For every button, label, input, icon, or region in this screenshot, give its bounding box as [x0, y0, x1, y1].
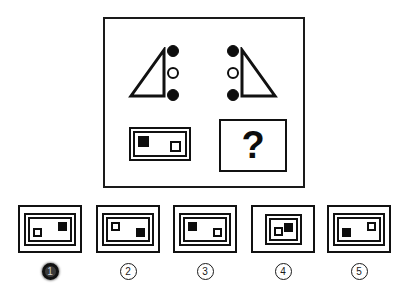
answer-option-4[interactable]: 4: [251, 205, 315, 280]
answer-option-3-label-wrap: 3: [173, 263, 237, 280]
answer-option-1-marker[interactable]: 1: [42, 263, 59, 280]
triangle-right-icon: [239, 47, 279, 99]
dot-hollow-middle-icon: [227, 67, 239, 79]
answer-option-3-marker[interactable]: 3: [197, 263, 214, 280]
answer-option-5-card: [333, 213, 385, 246]
reference-square-white: [170, 141, 181, 152]
dot-filled-bottom-icon: [227, 89, 239, 101]
answer-option-3[interactable]: 3: [173, 205, 237, 280]
triangle-group-right: [213, 47, 293, 101]
answer-option-1-frame[interactable]: [18, 205, 82, 253]
triangle-group-left: [113, 47, 193, 101]
answer-option-2-marker[interactable]: 2: [120, 263, 137, 280]
answer-option-4-card-inner: [269, 218, 298, 241]
answer-option-1-card-inner: [28, 217, 72, 242]
option-1-square-black: [58, 222, 67, 231]
problem-panel: ?: [103, 17, 305, 188]
answer-options-row: 1 2: [0, 205, 411, 295]
option-1-square-white: [33, 228, 42, 237]
option-2-square-white: [111, 222, 120, 231]
answer-option-4-frame[interactable]: [251, 205, 315, 253]
option-4-square-white: [274, 227, 283, 236]
option-3-square-black: [188, 222, 197, 231]
reference-square-black: [138, 136, 149, 147]
answer-option-1-label-wrap: 1: [18, 263, 82, 280]
reference-card: [129, 127, 191, 161]
question-mark-glyph: ?: [241, 126, 264, 164]
dot-filled-top-icon: [167, 45, 179, 57]
question-box: ?: [219, 119, 287, 172]
answer-option-3-card-inner: [183, 217, 227, 242]
answer-option-5-marker[interactable]: 5: [351, 263, 368, 280]
answer-option-1-card: [24, 213, 76, 246]
dot-filled-bottom-icon: [167, 89, 179, 101]
dot-column-right: [225, 45, 241, 101]
answer-option-2-card-inner: [106, 217, 150, 242]
dot-filled-top-icon: [227, 45, 239, 57]
dot-column-left: [165, 45, 181, 101]
answer-option-3-card: [179, 213, 231, 246]
option-3-square-white: [213, 228, 222, 237]
triangle-left-icon: [127, 47, 167, 99]
answer-option-4-label-wrap: 4: [251, 263, 315, 280]
option-2-square-black: [136, 228, 145, 237]
answer-option-5[interactable]: 5: [327, 205, 391, 280]
answer-option-5-card-inner: [337, 217, 381, 242]
answer-option-4-marker[interactable]: 4: [275, 263, 292, 280]
answer-option-5-label-wrap: 5: [327, 263, 391, 280]
answer-option-5-frame[interactable]: [327, 205, 391, 253]
answer-option-2-label-wrap: 2: [96, 263, 160, 280]
option-5-square-black: [342, 228, 351, 237]
answer-option-4-card: [265, 214, 302, 245]
option-4-square-black: [284, 223, 293, 232]
answer-option-3-frame[interactable]: [173, 205, 237, 253]
answer-option-2-card: [102, 213, 154, 246]
puzzle-screen: ? 1: [0, 0, 411, 298]
answer-option-1[interactable]: 1: [18, 205, 82, 280]
dot-hollow-middle-icon: [167, 67, 179, 79]
answer-option-2-frame[interactable]: [96, 205, 160, 253]
reference-card-inner: [133, 131, 187, 157]
answer-option-2[interactable]: 2: [96, 205, 160, 280]
option-5-square-white: [367, 222, 376, 231]
